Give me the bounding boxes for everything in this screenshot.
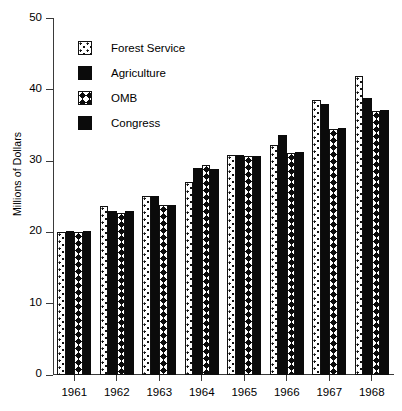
- bar-agriculture-1963: [151, 196, 160, 374]
- bar-agriculture-1962: [108, 211, 117, 375]
- bar-agriculture-1966: [278, 135, 287, 375]
- bar-group-1967: [312, 18, 346, 375]
- y-tick-20: 20: [0, 232, 53, 233]
- bar-group-1966: [270, 18, 304, 375]
- bar-congress-1965: [253, 156, 262, 375]
- x-tick-mark: [244, 375, 245, 381]
- legend-label: OMB: [111, 91, 137, 105]
- x-tick-mark: [329, 375, 330, 381]
- bar-forest-service-1961: [57, 232, 66, 375]
- bar-congress-1968: [380, 110, 389, 375]
- legend-swatch-icon: [78, 66, 92, 80]
- bar-omb-1962: [117, 213, 126, 375]
- y-tick-label: 30: [29, 153, 42, 165]
- bar-congress-1963: [168, 205, 177, 375]
- y-tick-0: 0: [0, 375, 53, 376]
- bar-agriculture-1967: [321, 104, 330, 375]
- y-tick-mark: [46, 375, 53, 376]
- x-tick-mark: [201, 375, 202, 381]
- bar-forest-service-1962: [100, 206, 109, 375]
- bar-omb-1968: [372, 111, 381, 375]
- x-tick-mark: [371, 375, 372, 381]
- bar-forest-service-1963: [142, 196, 151, 374]
- legend-swatch-icon: [78, 116, 92, 130]
- bar-forest-service-1964: [185, 182, 194, 375]
- y-tick-label: 20: [29, 224, 42, 236]
- y-tick-label: 10: [29, 296, 42, 308]
- x-tick-mark: [116, 375, 117, 381]
- bar-congress-1966: [295, 152, 304, 374]
- bar-omb-1966: [287, 153, 296, 374]
- legend-label: Forest Service: [111, 41, 185, 55]
- bar-omb-1961: [74, 232, 83, 375]
- bar-omb-1964: [202, 165, 211, 375]
- y-tick-30: 30: [0, 161, 53, 162]
- bar-congress-1961: [83, 231, 92, 374]
- y-tick-50: 50: [0, 18, 53, 19]
- bar-group-1964: [185, 18, 219, 375]
- bar-forest-service-1968: [355, 76, 364, 374]
- bar-omb-1967: [329, 129, 338, 375]
- bar-omb-1963: [159, 205, 168, 375]
- bar-forest-service-1967: [312, 100, 321, 375]
- y-tick-mark: [46, 161, 53, 162]
- x-tick-mark: [286, 375, 287, 381]
- bar-agriculture-1964: [193, 168, 202, 374]
- legend-label: Agriculture: [111, 66, 166, 80]
- x-tick-mark: [159, 375, 160, 381]
- y-tick-40: 40: [0, 89, 53, 90]
- bar-congress-1962: [125, 211, 134, 375]
- bar-group-1965: [227, 18, 261, 375]
- y-tick-10: 10: [0, 303, 53, 304]
- y-tick-mark: [46, 89, 53, 90]
- legend-swatch-icon: [78, 91, 92, 105]
- bar-agriculture-1968: [363, 98, 372, 375]
- bar-chart: Millions of Dollars 01020304050 19611962…: [0, 0, 402, 411]
- y-tick-mark: [46, 232, 53, 233]
- x-tick-mark: [74, 375, 75, 381]
- bar-congress-1964: [210, 169, 219, 374]
- bar-agriculture-1961: [66, 231, 75, 374]
- legend-swatch-icon: [78, 41, 92, 55]
- y-tick-mark: [46, 18, 53, 19]
- bar-forest-service-1966: [270, 145, 279, 375]
- bar-forest-service-1965: [227, 155, 236, 375]
- bar-omb-1965: [244, 156, 253, 375]
- bar-agriculture-1965: [236, 155, 245, 375]
- y-axis-label: Millions of Dollars: [11, 99, 23, 249]
- y-tick-label: 0: [36, 367, 42, 379]
- bar-group-1968: [355, 18, 389, 375]
- y-tick-mark: [46, 303, 53, 304]
- y-tick-label: 50: [29, 11, 42, 23]
- legend-label: Congress: [111, 116, 160, 130]
- y-tick-label: 40: [29, 82, 42, 94]
- bar-congress-1967: [338, 128, 347, 375]
- x-tick-label: 1968: [346, 386, 398, 398]
